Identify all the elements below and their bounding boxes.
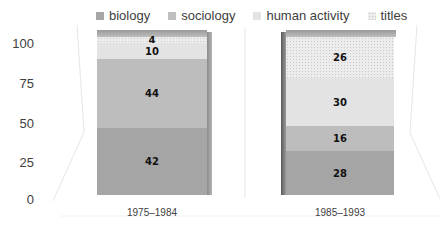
segment-titles: 26 xyxy=(286,37,394,78)
y-tick-75: 75 xyxy=(0,76,34,91)
legend-label: sociology xyxy=(181,8,235,23)
x-label-1985-1993: 1985–1993 xyxy=(280,207,400,218)
chart-legend: biology sociology human activity titles xyxy=(96,8,407,23)
y-tick-25: 25 xyxy=(0,155,34,170)
data-label: 26 xyxy=(333,52,347,63)
legend-swatch-biology xyxy=(96,12,104,20)
data-label: 44 xyxy=(145,88,159,99)
legend-swatch-titles xyxy=(368,12,376,20)
y-tick-50: 50 xyxy=(0,116,34,131)
legend-item-human-activity: human activity xyxy=(253,8,349,23)
segment-biology: 42 xyxy=(97,128,207,195)
data-label: 30 xyxy=(333,97,347,108)
legend-label: human activity xyxy=(266,8,349,23)
legend-swatch-human-activity xyxy=(253,12,261,20)
data-label: 28 xyxy=(333,168,347,179)
legend-item-biology: biology xyxy=(96,8,150,23)
segment-sociology: 44 xyxy=(97,59,207,128)
bar-1-side xyxy=(207,32,212,195)
bar-1975-1984: 4 10 44 42 xyxy=(97,37,207,195)
data-label: 16 xyxy=(333,133,347,144)
data-label: 42 xyxy=(145,156,159,167)
y-tick-100: 100 xyxy=(0,36,34,51)
segment-sociology: 16 xyxy=(286,126,394,151)
bar-1985-1993: 26 30 16 28 xyxy=(286,37,394,195)
data-label: 10 xyxy=(145,46,159,57)
legend-label: biology xyxy=(109,8,150,23)
segment-human-activity: 10 xyxy=(97,43,207,59)
x-label-1975-1984: 1975–1984 xyxy=(92,207,212,218)
legend-label: titles xyxy=(381,8,408,23)
legend-item-sociology: sociology xyxy=(168,8,235,23)
legend-swatch-sociology xyxy=(168,12,176,20)
segment-biology: 28 xyxy=(286,151,394,195)
y-tick-0: 0 xyxy=(0,192,34,207)
legend-item-titles: titles xyxy=(368,8,408,23)
segment-human-activity: 30 xyxy=(286,78,394,126)
bar-2-top-cap xyxy=(286,30,396,37)
